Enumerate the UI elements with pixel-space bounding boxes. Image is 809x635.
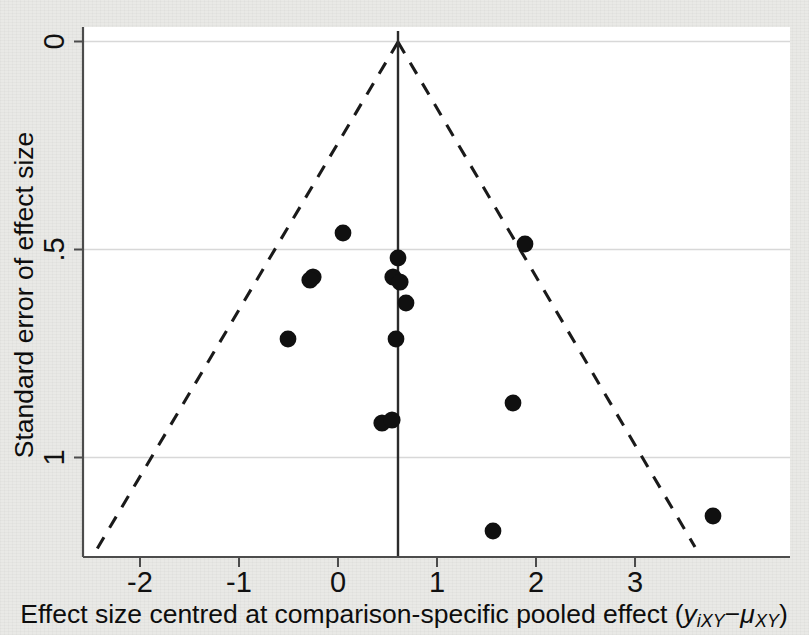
data-point <box>388 331 405 348</box>
x-axis-title-minus: − <box>725 599 740 629</box>
funnel-plot-svg: 0 .5 1 Standard error of effect size -2 … <box>0 0 809 635</box>
x-axis-title: Effect size centred at comparison-specif… <box>20 599 787 631</box>
x-tick-label--1: -1 <box>226 566 252 598</box>
figure-container: 0 .5 1 Standard error of effect size -2 … <box>0 0 809 635</box>
data-point <box>505 395 522 412</box>
x-tick-label-3: 3 <box>627 566 643 598</box>
data-point <box>383 411 400 428</box>
data-point <box>517 236 534 253</box>
x-tick-label-1: 1 <box>429 566 445 598</box>
x-axis-title-var-mu: μ <box>739 599 755 629</box>
x-axis-title-sub-ixy: iXY <box>697 611 727 631</box>
y-tick-label-0.5: .5 <box>38 237 70 261</box>
data-point <box>705 508 722 525</box>
data-point <box>398 295 415 312</box>
data-point <box>390 250 407 267</box>
data-point <box>391 273 408 290</box>
data-point <box>280 331 297 348</box>
data-point <box>301 271 318 288</box>
x-tick-label-0: 0 <box>330 566 346 598</box>
y-tick-label-1: 1 <box>38 449 70 465</box>
x-tick-label-2: 2 <box>528 566 544 598</box>
x-axis-title-suffix: ) <box>779 599 788 629</box>
data-point <box>485 523 502 540</box>
y-axis-ticks <box>74 42 83 458</box>
y-tick-label-0: 0 <box>38 33 70 49</box>
x-axis-title-prefix: Effect size centred at comparison-specif… <box>20 599 684 629</box>
y-axis-title: Standard error of effect size <box>9 132 39 459</box>
funnel-plot-figure: 0 .5 1 Standard error of effect size -2 … <box>0 0 809 635</box>
x-axis-title-sub-xy: XY <box>754 611 781 631</box>
x-tick-label--2: -2 <box>127 566 153 598</box>
x-axis-ticks <box>140 557 635 567</box>
data-point <box>335 225 352 242</box>
